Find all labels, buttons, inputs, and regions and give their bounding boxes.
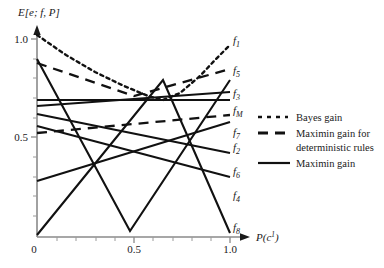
chart-svg: 1.0 0.5 0 0.5 1.0 E[e; f, P] P(c1) f1 f5… xyxy=(0,0,384,268)
y-axis-title: E[e; f, P] xyxy=(17,6,60,18)
y-tick-label-1-0: 1.0 xyxy=(14,33,28,45)
x-tick-label-0: 0 xyxy=(31,243,37,255)
label-fM-sub: M xyxy=(235,110,244,119)
x-tick-label-0-5: 0.5 xyxy=(127,243,141,255)
x-tick-label-1-0: 1.0 xyxy=(223,243,237,255)
label-f5-sub: 5 xyxy=(236,70,240,79)
label-f4-sub: 4 xyxy=(236,195,240,204)
x-axis-title-close: ) xyxy=(274,231,279,244)
label-f6-sub: 6 xyxy=(236,171,240,180)
chart-figure: 1.0 0.5 0 0.5 1.0 E[e; f, P] P(c1) f1 f5… xyxy=(0,0,384,268)
legend-label-bayes-gain: Bayes gain xyxy=(296,112,343,123)
legend-label-maximin-deterministic-line2: deterministic rules xyxy=(296,142,374,153)
y-axis-title-text: E[e; f, P] xyxy=(17,6,60,18)
y-tick-label-0-5: 0.5 xyxy=(14,131,28,143)
label-f2-sub: 2 xyxy=(236,147,240,156)
legend-label-maximin-deterministic: Maximin gain for xyxy=(296,128,371,139)
x-axis-title-base: P(c xyxy=(255,231,271,244)
label-f1-sub: 1 xyxy=(236,40,240,49)
label-f8-sub: 8 xyxy=(236,227,240,236)
x-axis-title: P(c1) xyxy=(255,230,279,244)
legend-label-maximin-gain: Maximin gain xyxy=(296,158,356,169)
label-f3-sub: 3 xyxy=(235,93,240,102)
